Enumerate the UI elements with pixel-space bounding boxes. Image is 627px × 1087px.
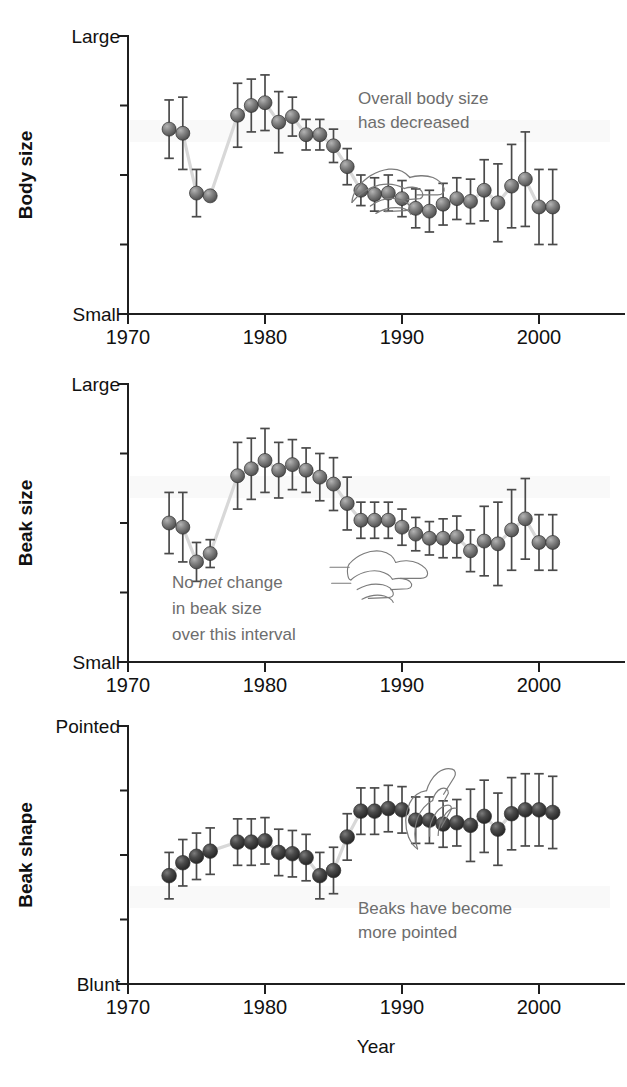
panel-body-size-svg: Large Small Body size 1970 1980 1990 200… bbox=[0, 0, 627, 348]
data-point bbox=[395, 520, 409, 534]
data-point bbox=[491, 822, 506, 837]
data-point bbox=[436, 531, 450, 545]
data-point bbox=[285, 458, 299, 472]
data-point bbox=[463, 818, 478, 833]
data-point bbox=[518, 803, 533, 818]
annotation-line-3: over this interval bbox=[172, 625, 296, 644]
data-point bbox=[203, 189, 217, 203]
data-point bbox=[464, 194, 478, 208]
data-point bbox=[244, 99, 258, 113]
panel-background bbox=[0, 0, 627, 348]
data-point bbox=[546, 200, 560, 214]
data-point bbox=[532, 200, 546, 214]
data-point bbox=[231, 108, 245, 122]
data-point bbox=[422, 531, 436, 545]
y-axis-title: Body size bbox=[15, 131, 36, 220]
y-top-label: Large bbox=[71, 26, 120, 47]
x-tick-label-2000: 2000 bbox=[517, 674, 562, 696]
y-bottom-label: Small bbox=[72, 304, 120, 325]
data-point bbox=[203, 547, 217, 561]
data-point bbox=[518, 172, 532, 186]
data-point bbox=[230, 835, 245, 850]
data-point bbox=[285, 846, 300, 861]
panel-background bbox=[0, 348, 627, 696]
data-point bbox=[176, 126, 190, 140]
data-point bbox=[381, 513, 395, 527]
data-point bbox=[313, 868, 328, 883]
data-point bbox=[190, 186, 204, 200]
x-tick-label-1990: 1990 bbox=[380, 326, 425, 348]
data-point bbox=[436, 197, 450, 211]
data-point bbox=[271, 845, 286, 860]
data-point bbox=[368, 187, 382, 201]
data-point bbox=[258, 96, 272, 110]
data-point bbox=[464, 544, 478, 558]
x-axis-title: Year bbox=[357, 1036, 396, 1057]
data-point bbox=[340, 830, 355, 845]
data-point bbox=[381, 801, 396, 816]
data-point bbox=[491, 196, 505, 210]
data-point bbox=[545, 805, 560, 820]
annotation-word-net: net bbox=[198, 573, 223, 592]
data-point bbox=[505, 523, 519, 537]
data-point bbox=[313, 128, 327, 142]
data-point bbox=[518, 512, 532, 526]
data-point bbox=[450, 192, 464, 206]
y-top-label: Pointed bbox=[56, 716, 120, 737]
panel-beak-size-svg: Large Small Beak size 1970 1980 1990 200… bbox=[0, 348, 627, 696]
data-point bbox=[244, 835, 259, 850]
data-point bbox=[327, 477, 341, 491]
data-point bbox=[244, 462, 258, 476]
data-point bbox=[162, 122, 176, 136]
data-point bbox=[504, 806, 519, 821]
data-point bbox=[258, 453, 272, 467]
x-tick-label-1990: 1990 bbox=[380, 996, 425, 1018]
data-point bbox=[409, 527, 423, 541]
panel-body-size: Large Small Body size 1970 1980 1990 200… bbox=[0, 0, 627, 348]
y-bottom-label: Blunt bbox=[77, 974, 121, 995]
data-point bbox=[190, 555, 204, 569]
data-point bbox=[299, 128, 313, 142]
data-point bbox=[477, 809, 492, 824]
annotation-line-2: has decreased bbox=[358, 113, 470, 132]
annotation-line-2: in beak size bbox=[172, 599, 262, 618]
x-tick-label-1980: 1980 bbox=[243, 326, 288, 348]
x-tick-label-1970: 1970 bbox=[106, 996, 151, 1018]
data-point bbox=[299, 850, 314, 865]
annotation-word-change: change bbox=[222, 573, 283, 592]
data-point bbox=[450, 815, 465, 830]
y-top-label: Large bbox=[71, 374, 120, 395]
annotation-line-1: Overall body size bbox=[358, 89, 488, 108]
x-tick-label-1990: 1990 bbox=[380, 674, 425, 696]
annotation-word-no: No bbox=[172, 573, 198, 592]
data-point bbox=[258, 834, 273, 849]
data-point bbox=[285, 110, 299, 124]
data-point bbox=[367, 804, 382, 819]
y-axis-title: Beak size bbox=[15, 480, 36, 567]
data-point bbox=[422, 204, 436, 218]
data-point bbox=[231, 469, 245, 483]
data-point bbox=[327, 139, 341, 153]
data-point bbox=[491, 537, 505, 551]
data-point bbox=[176, 855, 191, 870]
data-point bbox=[326, 863, 341, 878]
figure-root: Large Small Body size 1970 1980 1990 200… bbox=[0, 0, 627, 1087]
data-point bbox=[546, 535, 560, 549]
panel-beak-shape-svg: Pointed Blunt Beak shape 1970 1980 1990 … bbox=[0, 696, 627, 1087]
data-point bbox=[354, 804, 369, 819]
data-point bbox=[477, 534, 491, 548]
data-point bbox=[450, 530, 464, 544]
data-point bbox=[354, 513, 368, 527]
scan-artifact-band bbox=[130, 476, 610, 498]
x-tick-label-1980: 1980 bbox=[243, 674, 288, 696]
data-point bbox=[176, 520, 190, 534]
data-point bbox=[340, 497, 354, 511]
x-tick-label-2000: 2000 bbox=[517, 996, 562, 1018]
data-point bbox=[189, 849, 204, 864]
x-tick-label-1980: 1980 bbox=[243, 996, 288, 1018]
data-point bbox=[162, 516, 176, 530]
data-point bbox=[368, 513, 382, 527]
data-point bbox=[162, 868, 177, 883]
data-point bbox=[532, 535, 546, 549]
data-point bbox=[340, 160, 354, 174]
